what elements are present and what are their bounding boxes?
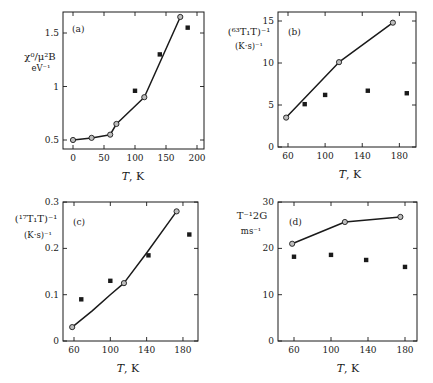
- calculated-point: [390, 20, 395, 25]
- panel-b: 60100140180051015 (b) (⁶³T₁T)⁻¹ (K·s)⁻¹ …: [228, 12, 416, 181]
- y-tick-label: 20: [263, 243, 275, 253]
- calculated-point: [398, 214, 403, 219]
- y-tick-label: 0: [268, 142, 274, 152]
- x-tick-label: 50: [98, 153, 110, 163]
- y-axis-unit-d: ms⁻¹: [241, 226, 261, 236]
- experiment-point: [364, 258, 368, 262]
- x-tick-label: 60: [282, 151, 294, 161]
- calculated-point: [284, 115, 289, 120]
- y-tick-label: 1.5: [45, 28, 60, 38]
- y-tick-label: 0: [53, 336, 59, 346]
- y-tick-label: 10: [263, 58, 275, 68]
- y-tick-label: 10: [263, 290, 275, 300]
- y-axis-title-d: T⁻¹2G: [237, 210, 267, 221]
- experiment-point: [329, 253, 333, 257]
- panel-c: 6010014018000.10.20.3 (c) (¹⁷T₁T)⁻¹ (K·s…: [15, 197, 198, 375]
- x-axis-title-c: T, K: [117, 362, 140, 375]
- calculated-line: [73, 17, 180, 140]
- y-axis-unit-b: (K·s)⁻¹: [235, 41, 263, 51]
- y-axis-unit-a: eV⁻¹: [31, 63, 50, 73]
- calculated-point: [342, 219, 347, 224]
- y-axis-title-b: (⁶³T₁T)⁻¹: [228, 26, 270, 37]
- y-tick-label: 0.5: [45, 135, 60, 145]
- x-tick-label: 0: [70, 153, 76, 163]
- panel-label-a: (a): [72, 24, 84, 34]
- x-tick-label: 200: [188, 153, 205, 163]
- experiment-point: [303, 102, 307, 106]
- experiment-point: [366, 89, 370, 93]
- calculated-point: [178, 14, 183, 19]
- x-tick-label: 180: [391, 151, 408, 161]
- calculated-point: [70, 325, 75, 330]
- x-tick-label: 180: [174, 345, 191, 355]
- panel-a: 0501001502000.511.5 (a) χ⁰/μ²B eV⁻¹ T, K: [24, 12, 206, 183]
- experiment-point: [158, 52, 162, 56]
- x-tick-label: 60: [68, 345, 80, 355]
- x-axis-unit-d: , K: [344, 362, 360, 375]
- plot-area-d: 601001401800102030: [263, 197, 417, 355]
- calculated-point: [290, 241, 295, 246]
- experiment-point: [108, 279, 112, 283]
- y-tick-label: 0.3: [45, 197, 60, 207]
- x-tick-label: 140: [138, 345, 155, 355]
- x-tick-label: 100: [317, 151, 334, 161]
- experiment-point: [187, 232, 191, 236]
- y-tick-label: 1: [53, 82, 59, 92]
- y-axis-title-c: (¹⁷T₁T)⁻¹: [15, 213, 57, 224]
- x-tick-label: 100: [322, 345, 339, 355]
- y-tick-label: 5: [268, 100, 274, 110]
- panel-d: 601001401800102030 (d) T⁻¹2G ms⁻¹ T, K: [237, 197, 417, 375]
- x-axis-unit-c: , K: [124, 362, 140, 375]
- calculated-point: [142, 95, 147, 100]
- y-axis-title-a: χ⁰/μ²B: [24, 51, 55, 62]
- y-tick-label: 0: [268, 336, 274, 346]
- x-axis-title-a: T, K: [122, 170, 145, 183]
- x-tick-label: 100: [102, 345, 119, 355]
- plot-area-a: 0501001502000.511.5: [45, 12, 206, 163]
- y-axis-unit-c: (K·s)⁻¹: [24, 230, 52, 240]
- figure: 0501001502000.511.5 (a) χ⁰/μ²B eV⁻¹ T, K…: [0, 0, 433, 383]
- experiment-point: [133, 89, 137, 93]
- panel-label-c: (c): [73, 217, 85, 227]
- calculated-point: [89, 135, 94, 140]
- experiment-point: [146, 253, 150, 257]
- x-tick-label: 180: [396, 345, 413, 355]
- x-axis-unit-b: , K: [346, 168, 362, 181]
- x-axis-title-b: T, K: [339, 168, 362, 181]
- experiment-point: [403, 265, 407, 269]
- x-tick-label: 140: [359, 345, 376, 355]
- calculated-point: [108, 132, 113, 137]
- y-tick-label: 0.1: [45, 290, 59, 300]
- x-tick-label: 150: [157, 153, 174, 163]
- calculated-point: [121, 281, 126, 286]
- calculated-line: [286, 23, 393, 118]
- y-tick-label: 30: [263, 197, 275, 207]
- x-axis-title-d: T, K: [337, 362, 360, 375]
- plot-area-b: 60100140180051015: [263, 12, 416, 161]
- calculated-line: [72, 211, 176, 327]
- experiment-point: [405, 91, 409, 95]
- experiment-point: [79, 297, 83, 301]
- x-axis-unit-a: , K: [129, 170, 145, 183]
- plot-area-c: 6010014018000.10.20.3: [45, 197, 198, 355]
- y-tick-label: 15: [263, 16, 275, 26]
- calculated-point: [174, 209, 179, 214]
- calculated-point: [70, 137, 75, 142]
- calculated-point: [336, 60, 341, 65]
- panel-label-d: (d): [289, 217, 302, 227]
- x-tick-label: 100: [126, 153, 143, 163]
- x-tick-label: 140: [354, 151, 371, 161]
- panel-label-b: (b): [288, 27, 301, 37]
- experiment-point: [186, 25, 190, 29]
- experiment-point: [323, 93, 327, 97]
- experiment-point: [292, 255, 296, 259]
- y-tick-label: 0.2: [45, 243, 59, 253]
- calculated-point: [114, 121, 119, 126]
- x-tick-label: 60: [288, 345, 300, 355]
